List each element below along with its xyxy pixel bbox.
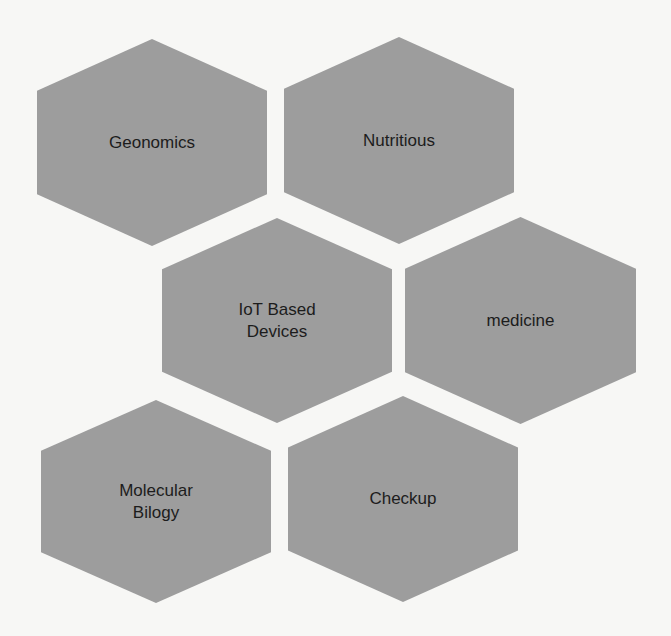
hexagon-label: Molecular Bilogy [119,480,193,524]
hexagon-checkup: Checkup [288,396,518,602]
hexagon-label: Checkup [369,488,436,510]
hexagon-geonomics: Geonomics [37,39,267,246]
hexagon-iot-based-devices: IoT Based Devices [162,218,392,423]
hexagon-nutritious: Nutritious [284,37,514,244]
hexagon-label: IoT Based Devices [238,299,315,343]
hexagon-label: Geonomics [109,132,195,154]
hexagon-label: medicine [486,310,554,332]
hexagon-label: Nutritious [363,130,435,152]
hexagon-molecular-biology: Molecular Bilogy [41,400,271,603]
hexagon-medicine: medicine [405,217,636,424]
